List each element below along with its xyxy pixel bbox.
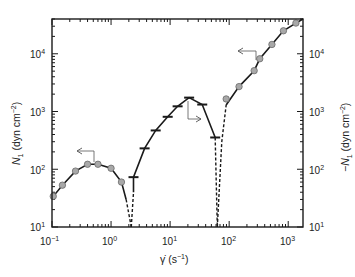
y-tick-label-right: 101 xyxy=(309,221,324,233)
chart: 10−1 100 101 102 103 101 102 103 104 101… xyxy=(0,0,355,277)
fit-curve-mid-dashed-left xyxy=(131,192,133,227)
data-point-circle xyxy=(95,161,101,167)
x-axis-label: γ̇ (s−1) xyxy=(160,253,188,265)
data-point-circle xyxy=(223,96,229,102)
x-tick-label: 100 xyxy=(102,235,117,247)
x-tick-label: 101 xyxy=(162,235,177,247)
x-tick-label: 103 xyxy=(280,235,295,247)
x-tick-label: 10−1 xyxy=(40,235,59,247)
y-tick-label-left: 101 xyxy=(30,221,45,233)
plot-frame xyxy=(52,19,303,227)
y-tick-label-left: 102 xyxy=(30,164,45,176)
data-point-circle xyxy=(251,67,257,73)
axis-ticks xyxy=(52,19,303,227)
data-point-circle xyxy=(269,41,275,47)
fit-curve-mid-dashed-right xyxy=(215,137,217,227)
y-tick-label-right: 102 xyxy=(309,164,324,176)
data-point-circle xyxy=(50,193,56,199)
data-point-circle xyxy=(280,28,286,34)
y-tick-label-left: 103 xyxy=(30,106,45,118)
fit-curve-high-dashed xyxy=(217,105,226,227)
y-axis-label-right: −N1 (dyn cm−2) xyxy=(339,103,353,172)
y-tick-label-right: 104 xyxy=(309,48,324,60)
data-point-circle xyxy=(108,165,114,171)
data-point-circle xyxy=(293,20,299,26)
y-tick-label-right: 103 xyxy=(309,106,324,118)
data-point-circle xyxy=(118,179,124,185)
y-tick-label-left: 104 xyxy=(30,48,45,60)
fit-curve-mid xyxy=(134,98,216,193)
fit-curve-high xyxy=(226,19,303,105)
axis-indicator-arrows xyxy=(77,48,256,162)
fit-curves xyxy=(52,19,303,227)
fit-curve-low-dashed xyxy=(126,199,131,227)
y-axis-label-left: N1 (dyn cm−2) xyxy=(10,102,24,165)
data-point-circle xyxy=(59,182,65,188)
data-point-circle xyxy=(236,83,242,89)
x-tick-label: 102 xyxy=(221,235,236,247)
data-point-circle xyxy=(72,168,78,174)
data-point-circle xyxy=(84,161,90,167)
data-point-circle xyxy=(257,56,263,62)
